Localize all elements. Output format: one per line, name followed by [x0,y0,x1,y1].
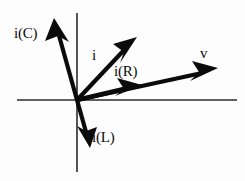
vector-label-v: v [200,46,207,61]
vector-ic-shaft [58,32,77,100]
vector-label-i: i [92,48,96,63]
vector-v-arrowhead [190,61,218,81]
vector-label-ic: i(C) [14,26,37,41]
vector-ic [45,18,77,100]
phasor-diagram-figure: i(C) i i(R) v i(L) [0,0,245,181]
vector-ic-arrowhead [45,18,69,42]
vector-label-il: i(L) [92,130,115,145]
vector-label-ir: i(R) [114,64,137,79]
